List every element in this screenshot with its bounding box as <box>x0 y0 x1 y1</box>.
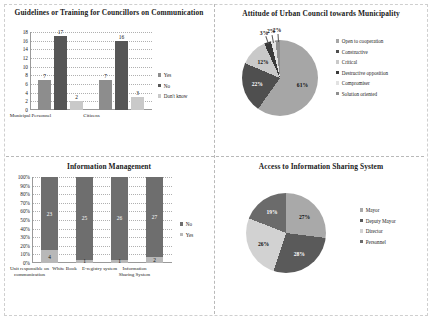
pie-graphic <box>246 193 326 273</box>
legend-swatch <box>336 60 339 63</box>
panel-attitude-council: Attitude of Urban Council towards Munici… <box>218 6 424 154</box>
bar-value-label: 16 <box>119 34 124 40</box>
legend-item-yes[interactable]: Yes <box>158 72 187 78</box>
legend-label: Constructive <box>342 49 368 55</box>
panel-divider-horizontal <box>6 156 424 157</box>
legend-swatch <box>360 208 363 211</box>
legend-guidelines: YesNoDon't know <box>158 72 187 104</box>
legend-item-solution-oriented[interactable]: Solution oriented <box>336 91 388 97</box>
legend-swatch <box>360 229 363 232</box>
legend-item-no[interactable]: No <box>180 221 193 227</box>
legend-item-constructive[interactable]: Constructive <box>336 49 388 55</box>
bar-value-yes: 1 <box>83 258 86 264</box>
y-axis-tick: 6 <box>25 81 28 87</box>
legend-label: No <box>164 83 170 89</box>
bar-value-label: 7 <box>104 73 107 79</box>
legend-label: Destructive opposition <box>342 70 388 76</box>
legend-item-destructive-opposition[interactable]: Destructive opposition <box>336 70 388 76</box>
panel-guidelines-training: Guidelines or Training for Councillors o… <box>6 6 212 154</box>
plot-area-guidelines: 0246810121416187172Municipal Personnel71… <box>6 6 212 126</box>
gridline <box>31 58 152 59</box>
legend-label: Critical <box>342 59 357 65</box>
legend-label: Yes <box>164 72 171 78</box>
gridline <box>31 32 152 33</box>
y-axis-tick: 12 <box>23 55 28 61</box>
y-axis-tick: 80% <box>20 191 30 197</box>
legend-item-deputy-mayor[interactable]: Deputy Mayor <box>360 218 396 224</box>
x-axis-category-label: Information Sharing System <box>115 266 155 277</box>
bar-yes <box>99 80 112 110</box>
bar-value-no: 27 <box>152 214 157 220</box>
bar-value-no: 23 <box>47 211 52 217</box>
y-axis-tick: 2 <box>25 98 28 104</box>
y-axis-tick: 20% <box>20 243 30 249</box>
y-axis-tick: 8 <box>25 72 28 78</box>
legend-item-critical[interactable]: Critical <box>336 59 388 65</box>
y-axis-tick: 40% <box>20 226 30 232</box>
pie-percent-label: 22% <box>252 81 263 87</box>
bar-value-label: 3 <box>136 90 139 96</box>
gridline <box>31 67 152 68</box>
legend-swatch <box>336 50 339 53</box>
legend-item-don-t-know[interactable]: Don't know <box>158 93 187 99</box>
pie-percent-label: 28% <box>294 251 305 257</box>
y-axis-tick: 70% <box>20 200 30 206</box>
bar-no <box>115 41 128 110</box>
y-axis-tick: 90% <box>20 183 30 189</box>
y-axis-tick: 10 <box>23 64 28 70</box>
bar-value-label: 7 <box>43 73 46 79</box>
legend-swatch <box>336 92 339 95</box>
panel-information-management: Information Management 0%10%20%30%40%50%… <box>6 159 212 312</box>
pie-percent-label: 26% <box>258 241 269 247</box>
legend-item-personnel[interactable]: Personnel <box>360 239 396 245</box>
y-axis-tick: 30% <box>20 234 30 240</box>
pie-percent-label: 2% <box>273 27 281 33</box>
y-axis-tick: 14 <box>23 46 28 52</box>
x-axis-category-label: Unit responsible on communication <box>10 266 50 277</box>
y-axis-tick: 10% <box>20 251 30 257</box>
legend-item-open-to-cooperation[interactable]: Open to cooperation <box>336 38 388 44</box>
x-axis-category-label: Municipal Personnel <box>1 113 61 119</box>
bar-value-yes: 4 <box>48 254 51 260</box>
legend-item-director[interactable]: Director <box>360 228 396 234</box>
legend-swatch <box>336 71 339 74</box>
bar-value-no: 26 <box>117 215 122 221</box>
bar-yes <box>38 80 51 110</box>
gridline <box>31 41 152 42</box>
legend-access-information: MayorDeputy MayorDirectorPersonnel <box>360 207 396 249</box>
legend-information-management: NoYes <box>180 221 193 242</box>
panel-divider-vertical <box>214 4 215 314</box>
legend-swatch <box>360 240 363 243</box>
x-axis-category-label: Citizens <box>62 113 122 119</box>
legend-swatch <box>158 94 161 97</box>
bar-no <box>54 36 67 110</box>
legend-item-mayor[interactable]: Mayor <box>360 207 396 213</box>
x-axis-category-label: White Book <box>45 266 85 272</box>
bar-value-yes: 1 <box>118 258 121 264</box>
bar-value-label: 2 <box>75 94 78 100</box>
y-axis-tick: 4 <box>25 90 28 96</box>
pie-graphic <box>242 40 318 116</box>
plot-area-attitude: 61%22%12%3%2%2% <box>218 6 424 136</box>
legend-label: No <box>186 221 192 227</box>
legend-label: Don't know <box>164 93 188 99</box>
gridline <box>31 49 152 50</box>
legend-item-yes[interactable]: Yes <box>180 232 193 238</box>
legend-label: Deputy Mayor <box>366 218 396 224</box>
bar-don-t-know <box>70 101 83 110</box>
gridline <box>31 75 152 76</box>
legend-label: Yes <box>186 232 193 238</box>
legend-label: Solution oriented <box>342 91 377 97</box>
pie-percent-label: 27% <box>299 214 310 220</box>
bar-value-no: 25 <box>82 215 87 221</box>
x-axis-category-label: E-registry system <box>80 266 120 272</box>
legend-swatch <box>158 84 161 87</box>
legend-item-compromiser[interactable]: Compromiser <box>336 80 388 86</box>
legend-swatch <box>336 81 339 84</box>
bar-value-label: 17 <box>58 29 63 35</box>
legend-item-no[interactable]: No <box>158 83 187 89</box>
legend-swatch <box>158 73 161 76</box>
bar-don-t-know <box>131 97 144 110</box>
bar-value-yes: 2 <box>153 257 156 263</box>
y-axis-tick: 18 <box>23 29 28 35</box>
